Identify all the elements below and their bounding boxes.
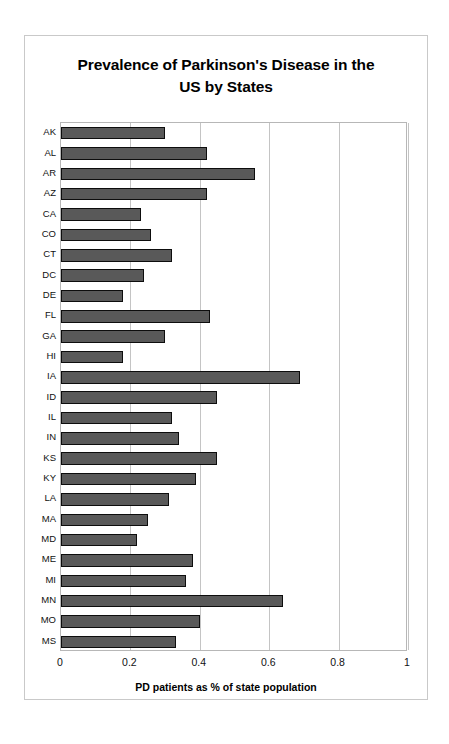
- bar-DE: [61, 290, 123, 303]
- chart-title-line-2: US by States: [25, 76, 427, 98]
- bar-MA: [61, 514, 148, 527]
- bar-IL: [61, 412, 172, 425]
- y-axis-label-AK: AK: [43, 127, 56, 137]
- bar-AL: [61, 147, 207, 160]
- bar-MO: [61, 615, 200, 628]
- x-axis-title: PD patients as % of state population: [25, 681, 427, 693]
- y-axis-label-KS: KS: [43, 453, 56, 463]
- bar-LA: [61, 493, 169, 506]
- y-axis-label-MO: MO: [41, 615, 56, 625]
- plot-area: [60, 122, 407, 651]
- bar-MD: [61, 534, 137, 547]
- y-axis-label-IL: IL: [48, 412, 56, 422]
- x-axis-tick-0.6: 0.6: [261, 656, 276, 668]
- y-axis-label-CT: CT: [43, 249, 56, 259]
- bar-MS: [61, 636, 176, 649]
- chart-title-line-1: Prevalence of Parkinson's Disease in the: [25, 54, 427, 76]
- bar-ID: [61, 391, 217, 404]
- bar-DC: [61, 269, 144, 282]
- y-axis-label-MA: MA: [42, 514, 56, 524]
- y-axis-label-FL: FL: [45, 310, 56, 320]
- y-axis-label-GA: GA: [42, 331, 56, 341]
- y-axis-label-MD: MD: [41, 534, 56, 544]
- y-axis-label-LA: LA: [44, 493, 56, 503]
- y-axis-label-MI: MI: [45, 575, 56, 585]
- bar-KY: [61, 473, 196, 486]
- bar-IN: [61, 432, 179, 445]
- x-axis-tick-0: 0: [57, 656, 63, 668]
- y-axis-label-ME: ME: [42, 554, 56, 564]
- y-axis-label-MN: MN: [41, 595, 56, 605]
- bar-CA: [61, 208, 141, 221]
- chart-title: Prevalence of Parkinson's Disease in the…: [25, 54, 427, 99]
- y-axis-label-CO: CO: [42, 229, 56, 239]
- y-axis-category-labels: AKALARAZCACOCTDCDEFLGAHIIAIDILINKSKYLAMA…: [25, 122, 56, 651]
- bar-HI: [61, 351, 123, 364]
- y-axis-label-IN: IN: [47, 432, 57, 442]
- bar-ME: [61, 554, 193, 567]
- y-axis-label-AZ: AZ: [44, 188, 56, 198]
- bar-KS: [61, 452, 217, 465]
- x-axis-tick-0.8: 0.8: [330, 656, 345, 668]
- bar-IA: [61, 371, 300, 384]
- bar-AR: [61, 168, 255, 181]
- x-axis-tick-labels: 00.20.40.60.81: [60, 656, 407, 674]
- y-axis-label-DC: DC: [42, 270, 56, 280]
- x-axis-tick-0.2: 0.2: [122, 656, 137, 668]
- bar-CO: [61, 229, 151, 242]
- bar-MI: [61, 575, 186, 588]
- bar-AZ: [61, 188, 207, 201]
- y-axis-label-CA: CA: [43, 209, 56, 219]
- bar-MN: [61, 595, 283, 608]
- y-axis-label-IA: IA: [47, 371, 56, 381]
- bar-series: [61, 123, 406, 650]
- y-axis-label-ID: ID: [47, 392, 57, 402]
- bar-FL: [61, 310, 210, 323]
- x-axis-tick-1: 1: [404, 656, 410, 668]
- bar-CT: [61, 249, 172, 262]
- y-axis-label-DE: DE: [43, 290, 56, 300]
- bar-GA: [61, 330, 165, 343]
- y-axis-label-AR: AR: [43, 168, 56, 178]
- y-axis-label-HI: HI: [47, 351, 57, 361]
- chart-frame: Prevalence of Parkinson's Disease in the…: [24, 35, 428, 700]
- y-axis-label-AL: AL: [44, 148, 56, 158]
- bar-AK: [61, 127, 165, 140]
- x-axis-tick-0.4: 0.4: [191, 656, 206, 668]
- y-axis-label-MS: MS: [42, 636, 56, 646]
- gridline-1: [408, 123, 409, 650]
- y-axis-label-KY: KY: [43, 473, 56, 483]
